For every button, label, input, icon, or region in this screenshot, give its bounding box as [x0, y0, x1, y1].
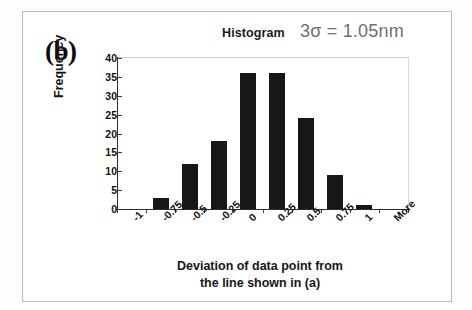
bar-slot	[379, 58, 408, 209]
x-axis-title-line-2: the line shown in (a)	[115, 275, 405, 292]
histogram-bar[interactable]	[182, 164, 198, 209]
histogram-bar[interactable]	[240, 73, 256, 209]
y-tick-label: 15	[93, 146, 117, 158]
sigma-annotation: 3σ = 1.05nm	[300, 21, 404, 42]
y-tick-label: 30	[93, 90, 117, 102]
y-tick-label: 35	[93, 71, 117, 83]
x-axis-title: Deviation of data point from the line sh…	[115, 258, 405, 292]
bar-slot	[321, 58, 350, 209]
x-axis-title-line-1: Deviation of data point from	[115, 258, 405, 275]
histogram-bar[interactable]	[327, 175, 343, 209]
bar-slot	[204, 58, 233, 209]
y-tick-label: 40	[93, 52, 117, 64]
bar-slot	[175, 58, 204, 209]
chart-title: Histogram	[222, 26, 285, 40]
bar-slot	[350, 58, 379, 209]
y-axis-title: Frequency	[52, 0, 66, 98]
histogram-bar[interactable]	[211, 141, 227, 209]
y-axis-tick-labels: 4035302520151050	[88, 58, 117, 209]
x-tick-label: 0	[246, 211, 259, 224]
bar-slot	[146, 58, 175, 209]
y-tick-label: 0	[93, 203, 117, 215]
x-tick-label: 1	[362, 211, 375, 224]
y-tick-label: 25	[93, 109, 117, 121]
plot-area	[117, 58, 408, 209]
plot-frame-right	[408, 57, 409, 210]
x-axis-tick-labels: -1-0.75-0.5-0.2500.250.50.751More	[117, 213, 408, 257]
figure-page: (b) Histogram 3σ = 1.05nm Frequency 4035…	[0, 0, 472, 310]
y-tick-label: 10	[93, 165, 117, 177]
y-tick-label: 20	[93, 128, 117, 140]
histogram-bar[interactable]	[298, 118, 314, 209]
bar-slot	[292, 58, 321, 209]
y-tick-label: 5	[93, 184, 117, 196]
bar-slot	[233, 58, 262, 209]
bar-slot	[117, 58, 146, 209]
bar-slot	[263, 58, 292, 209]
histogram-bar[interactable]	[269, 73, 285, 209]
